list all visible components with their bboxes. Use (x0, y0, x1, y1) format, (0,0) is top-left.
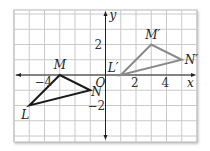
y-axis-label: y (109, 8, 117, 22)
vertex-label: M (53, 58, 67, 72)
x-axis-label: x (187, 76, 194, 90)
y-tick-label: −2 (88, 99, 106, 113)
vertex-label: M′ (144, 28, 160, 42)
vertex-label: L′ (107, 61, 119, 75)
coordinate-plane: LMNL′M′N′yxO−4242−2 (0, 0, 210, 151)
x-tick-label: −4 (35, 75, 53, 89)
vertex-label: L (20, 108, 29, 122)
vertex-label: N′ (184, 53, 199, 67)
x-tick-label: 4 (162, 76, 170, 90)
y-tick-label: 2 (95, 38, 103, 52)
x-tick-label: 2 (131, 76, 139, 90)
origin-label: O (96, 76, 106, 90)
